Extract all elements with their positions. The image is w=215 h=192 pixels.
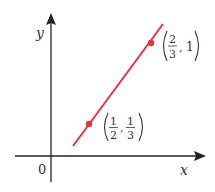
svg-text:,: , (179, 41, 183, 54)
origin-label: 0 (38, 162, 46, 177)
y-axis-label: y (35, 25, 45, 41)
svg-text:3: 3 (169, 48, 176, 61)
point-b-marker (148, 40, 154, 46)
svg-text:,: , (120, 121, 124, 134)
graph-canvas: y x 0 1 2 , 1 3 2 3 , 1 (0, 0, 215, 192)
point-a-marker (86, 121, 92, 127)
svg-text:1: 1 (127, 115, 134, 128)
svg-text:1: 1 (186, 40, 194, 54)
point-a-label: 1 2 , 1 3 (105, 113, 143, 142)
x-axis-label: x (180, 162, 188, 178)
point-b-label: 2 3 , 1 (164, 31, 199, 61)
svg-text:3: 3 (127, 129, 134, 142)
svg-text:2: 2 (110, 129, 117, 142)
svg-text:2: 2 (169, 33, 176, 46)
svg-text:1: 1 (110, 115, 117, 128)
